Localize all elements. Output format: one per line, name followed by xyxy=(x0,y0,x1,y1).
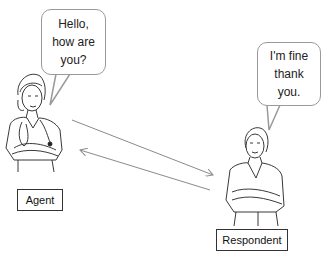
agent-speech-line: you? xyxy=(52,51,95,69)
arrow-agent-to-respondent xyxy=(72,120,213,175)
agent-speech-bubble: Hello, how are you? xyxy=(41,9,106,75)
agent-label: Agent xyxy=(17,189,63,211)
agent-speech-line: how are xyxy=(52,33,95,51)
agent-bubble-tail xyxy=(50,74,70,105)
respondent-speech-line: I'm fine xyxy=(270,47,308,65)
respondent-speech-line: thank xyxy=(270,65,308,83)
respondent-label: Respondent xyxy=(216,229,288,251)
agent-speech-line: Hello, xyxy=(52,15,95,33)
respondent-figure-icon xyxy=(226,128,284,226)
respondent-speech-line: you. xyxy=(270,83,308,101)
arrow-respondent-to-agent xyxy=(80,150,210,190)
respondent-bubble-tail xyxy=(267,105,280,130)
respondent-speech-bubble: I'm fine thank you. xyxy=(257,42,321,106)
